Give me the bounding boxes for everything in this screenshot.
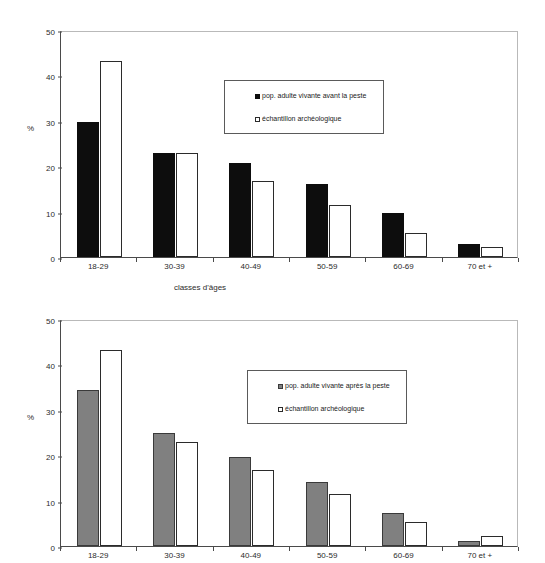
- y-tick-mark: [58, 168, 62, 169]
- x-tick-label: 70 et +: [467, 551, 492, 560]
- y-tick-mark: [58, 457, 62, 458]
- bar: [153, 153, 175, 257]
- y-tick-label: 0: [51, 544, 55, 553]
- bar: [77, 122, 99, 257]
- y-axis-title: %: [27, 413, 34, 422]
- bar: [329, 494, 351, 546]
- x-tick-label: 50-59: [317, 262, 337, 271]
- y-tick-mark: [58, 32, 62, 33]
- x-tick-label: 40-49: [241, 551, 261, 560]
- x-tick-mark: [60, 547, 61, 551]
- x-tick-mark: [365, 547, 366, 551]
- y-tick-label: 40: [46, 362, 55, 371]
- bar: [252, 181, 274, 257]
- x-tick-label: 18-29: [88, 262, 108, 271]
- bar: [176, 442, 198, 546]
- y-tick-mark: [58, 502, 62, 503]
- bar: [229, 457, 251, 546]
- x-tick-mark: [518, 547, 519, 551]
- x-tick-label: 18-29: [88, 551, 108, 560]
- x-tick-label: 40-49: [241, 262, 261, 271]
- x-tick-mark: [136, 258, 137, 262]
- bar: [405, 522, 427, 546]
- legend-entry-series-0: pop. adulte vivante après la peste: [278, 382, 390, 390]
- bar: [306, 184, 328, 257]
- legend-label-series-0: pop. adulte vivante après la peste: [285, 382, 390, 390]
- bar: [252, 470, 274, 546]
- x-tick-mark: [289, 258, 290, 262]
- bar: [382, 213, 404, 257]
- bar: [306, 482, 328, 546]
- y-tick-label: 20: [46, 453, 55, 462]
- bar: [176, 153, 198, 257]
- legend-label-series-1: échantillon archéologique: [285, 405, 364, 413]
- y-tick-label: 50: [46, 28, 55, 37]
- legend-label-series-1: échantillon archéologique: [262, 115, 341, 123]
- bar: [329, 205, 351, 257]
- chart-avant-la-peste: % 01020304050 pop. adulte vivante avant …: [0, 0, 545, 300]
- y-tick-label: 10: [46, 209, 55, 218]
- legend-label-series-0: pop. adulte vivante avant la peste: [262, 92, 366, 100]
- x-tick-label: 70 et +: [467, 262, 492, 271]
- figure-bar-charts: % 01020304050 pop. adulte vivante avant …: [0, 0, 545, 563]
- y-tick-mark: [58, 122, 62, 123]
- bar: [458, 541, 480, 546]
- legend-bottom: pop. adulte vivante après la peste échan…: [247, 370, 407, 424]
- legend-entry-series-1: échantillon archéologique: [255, 115, 341, 123]
- x-tick-mark: [289, 547, 290, 551]
- legend-top: pop. adulte vivante avant la peste échan…: [224, 80, 384, 134]
- x-tick-label: 60-69: [393, 262, 413, 271]
- y-tick-label: 20: [46, 164, 55, 173]
- x-tick-mark: [442, 258, 443, 262]
- y-tick-label: 40: [46, 73, 55, 82]
- x-tick-mark: [136, 547, 137, 551]
- x-tick-label: 50-59: [317, 551, 337, 560]
- y-tick-mark: [58, 213, 62, 214]
- y-tick-label: 30: [46, 407, 55, 416]
- y-tick-mark: [58, 411, 62, 412]
- bar: [481, 536, 503, 546]
- bar: [382, 513, 404, 546]
- x-tick-label: 30-39: [164, 262, 184, 271]
- plot-area-top: 01020304050 pop. adulte vivante avant la…: [60, 31, 518, 258]
- y-tick-label: 30: [46, 118, 55, 127]
- x-axis-title: classes d'âges: [174, 283, 226, 292]
- x-tick-mark: [213, 258, 214, 262]
- legend-entry-series-1: échantillon archéologique: [278, 405, 364, 413]
- bar: [481, 247, 503, 257]
- x-tick-mark: [213, 547, 214, 551]
- x-tick-label: 60-69: [393, 551, 413, 560]
- open-square-icon: [255, 117, 260, 122]
- bar: [153, 433, 175, 547]
- chart-apres-la-peste: % 01020304050 pop. adulte vivante après …: [0, 300, 545, 563]
- filled-square-icon: [278, 384, 283, 389]
- open-square-icon: [278, 407, 283, 412]
- y-tick-mark: [58, 77, 62, 78]
- bar: [458, 244, 480, 257]
- x-tick-mark: [442, 547, 443, 551]
- bar: [100, 61, 122, 257]
- y-axis-title: %: [27, 124, 34, 133]
- y-tick-label: 0: [51, 255, 55, 264]
- y-tick-label: 50: [46, 317, 55, 326]
- y-tick-mark: [58, 366, 62, 367]
- bar: [100, 350, 122, 546]
- bar: [229, 163, 251, 257]
- y-tick-label: 10: [46, 498, 55, 507]
- x-tick-label: 30-39: [164, 551, 184, 560]
- plot-area-bottom: 01020304050 pop. adulte vivante après la…: [60, 320, 518, 547]
- filled-square-icon: [255, 94, 260, 99]
- x-tick-mark: [365, 258, 366, 262]
- bar: [405, 233, 427, 257]
- x-tick-mark: [518, 258, 519, 262]
- legend-entry-series-0: pop. adulte vivante avant la peste: [255, 92, 366, 100]
- y-tick-mark: [58, 321, 62, 322]
- bar: [77, 390, 99, 546]
- x-tick-mark: [60, 258, 61, 262]
